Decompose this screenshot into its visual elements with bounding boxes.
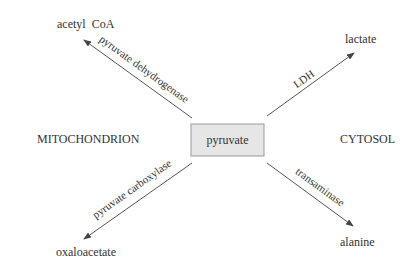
pyruvate-fate-diagram: pyruvate pyruvate dehydrogenase LDH pyru… bbox=[0, 0, 405, 273]
product-oxaloacetate: oxaloacetate bbox=[56, 245, 116, 259]
pyruvate-label: pyruvate bbox=[207, 133, 249, 147]
enzyme-label-pdh: pyruvate dehydrogenase bbox=[97, 33, 191, 106]
region-label-mitochondrion: MITOCHONDRION bbox=[37, 132, 140, 146]
product-alanine: alanine bbox=[340, 235, 375, 249]
arrow-to-lactate bbox=[267, 53, 354, 116]
enzyme-label-ldh: LDH bbox=[291, 67, 316, 90]
region-label-cytosol: CYTOSOL bbox=[340, 132, 395, 146]
arrow-to-acetyl-coa bbox=[84, 40, 192, 118]
product-acetyl-coa: acetyl CoA bbox=[57, 17, 115, 31]
diagram-svg: pyruvate pyruvate dehydrogenase LDH pyru… bbox=[0, 0, 405, 273]
product-lactate: lactate bbox=[345, 32, 376, 46]
arrow-to-oxaloacetate bbox=[84, 163, 192, 239]
enzyme-label-pc: pyruvate carboxylase bbox=[90, 157, 174, 221]
